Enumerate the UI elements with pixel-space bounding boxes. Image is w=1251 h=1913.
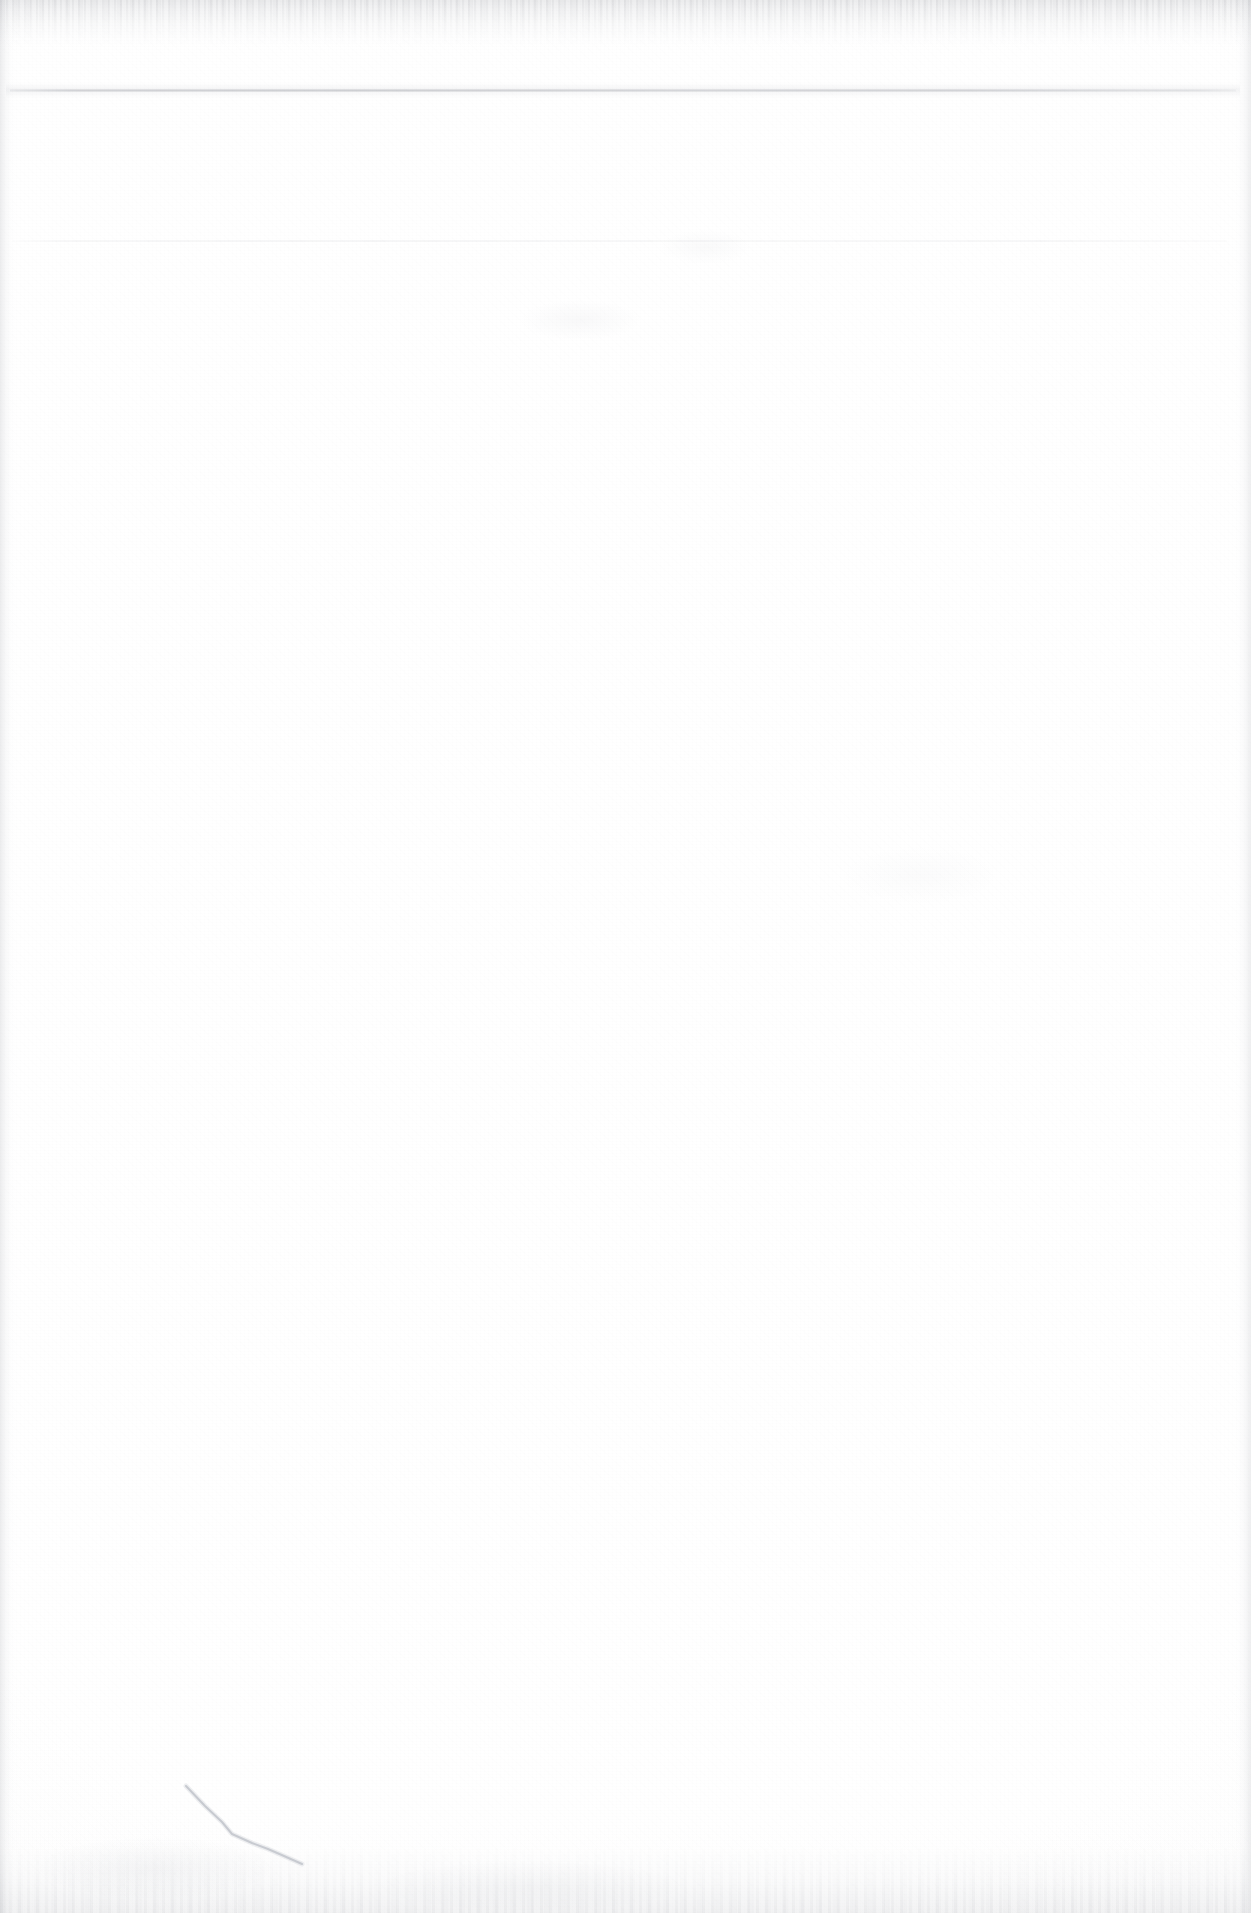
paper-background [0, 0, 1251, 1913]
scanned-page: Blank scanned document page with two fai… [0, 0, 1251, 1913]
